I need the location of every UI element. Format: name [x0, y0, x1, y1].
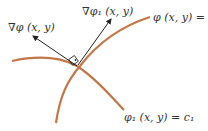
curve-phi — [56, 17, 150, 123]
curve-phi-label: φ (x, y) = c — [153, 12, 208, 23]
grad-phi1-label: ∇φ₁ (x, y) — [82, 6, 133, 17]
curve-phi1-label: φ₁ (x, y) = c₁ — [124, 112, 194, 123]
grad-phi1-arrow — [78, 19, 111, 65]
grad-phi-label: ∇φ (x, y) — [8, 22, 55, 33]
